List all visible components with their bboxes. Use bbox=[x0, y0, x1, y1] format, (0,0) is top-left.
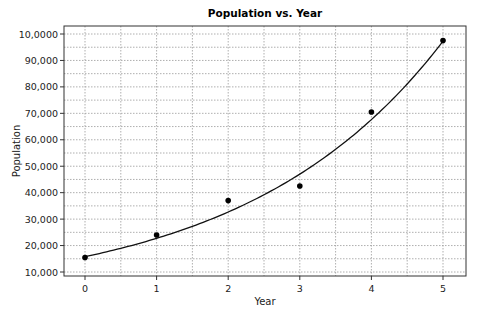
x-axis-ticks: 012345 bbox=[82, 276, 446, 294]
y-tick-label: 90,000 bbox=[25, 55, 58, 66]
x-tick-label: 2 bbox=[225, 283, 231, 294]
y-tick-label: 70,000 bbox=[25, 108, 58, 119]
x-tick-label: 4 bbox=[368, 283, 374, 294]
gridlines bbox=[64, 26, 466, 276]
data-point bbox=[225, 198, 231, 204]
y-tick-label: 30,000 bbox=[25, 214, 58, 225]
data-point bbox=[154, 232, 160, 238]
y-axis-ticks: 10,00020,00030,00040,00050,00060,00070,0… bbox=[19, 29, 64, 278]
x-tick-label: 1 bbox=[154, 283, 160, 294]
x-tick-label: 0 bbox=[82, 283, 88, 294]
y-tick-label: 40,000 bbox=[25, 187, 58, 198]
data-point bbox=[82, 255, 88, 261]
y-tick-label: 10,000 bbox=[25, 267, 58, 278]
y-tick-label: 20,000 bbox=[25, 240, 58, 251]
plot-frame bbox=[64, 26, 466, 276]
y-axis-label: Population bbox=[11, 125, 22, 178]
data-point bbox=[297, 183, 303, 189]
x-tick-label: 5 bbox=[440, 283, 446, 294]
data-point bbox=[440, 38, 446, 44]
chart-title: Population vs. Year bbox=[208, 7, 323, 19]
x-axis-label: Year bbox=[253, 296, 276, 307]
population-chart: Population vs. Year 10,00020,00030,00040… bbox=[0, 0, 478, 322]
x-tick-label: 3 bbox=[297, 283, 303, 294]
y-tick-label: 60,000 bbox=[25, 134, 58, 145]
data-point bbox=[369, 109, 375, 115]
y-tick-label: 10,0000 bbox=[19, 29, 58, 40]
y-tick-label: 50,000 bbox=[25, 161, 58, 172]
y-tick-label: 80,000 bbox=[25, 81, 58, 92]
